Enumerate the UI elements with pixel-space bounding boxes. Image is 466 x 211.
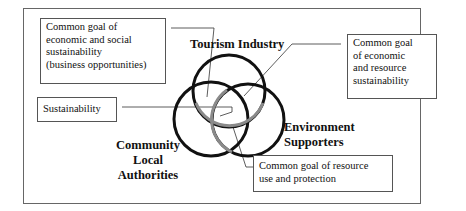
callout-community-environment: Common goal of resource use and protecti…	[253, 155, 393, 192]
callout-tourism-environment: Common goal of economic and resource sus…	[347, 34, 437, 99]
callout-center: Sustainability	[37, 97, 117, 122]
label-tourism-industry: Tourism Industry	[190, 37, 284, 52]
label-environment-supporters: Environment Supporters	[284, 120, 355, 150]
callout-tourism-community: Common goal of economic and social susta…	[40, 18, 166, 84]
label-community-local-authorities: Community Local Authorities	[113, 138, 183, 183]
overlap-arc-tourism	[196, 103, 263, 126]
